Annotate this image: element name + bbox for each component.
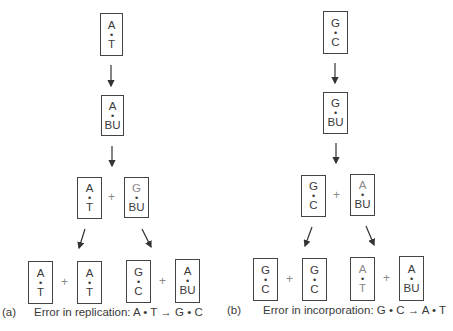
base-bottom: T [86,202,93,213]
caption-b: Error in incorporation: G • C → A • T [263,304,446,316]
arrow-diag-icon [79,229,85,248]
plus-sign: + [383,271,390,285]
base-pair-box-b-second: G • BU [323,92,348,134]
arrow-diag-icon [142,229,151,247]
base-pair-box-b-l4-3: A • T [350,257,375,301]
base-top: G [310,265,319,276]
base-bottom: C [331,37,339,48]
caption-a: Error in replication: A • T → G • C [34,306,203,318]
base-pair-box-a-l4-2: A • T [77,261,102,304]
panel-label-b: (b) [227,304,241,316]
base-bottom: BU [355,199,371,210]
base-top: A [109,101,117,112]
base-bottom: C [310,284,318,295]
plus-sign: + [286,272,293,286]
base-pair-box-a-l4-1: A • T [28,261,53,304]
base-bottom: BU [129,202,145,213]
plus-sign: + [159,274,166,288]
base-top: A [408,264,416,275]
base-pair-box-a-l3-2: G • BU [124,177,149,218]
base-bottom: C [309,200,317,211]
base-pair-box-a-top: A • T [100,13,123,56]
base-top: A [108,20,116,31]
base-pair-box-a-second: A • BU [101,95,124,136]
base-bottom: T [86,287,93,298]
base-pair-box-b-l4-2: G • C [302,258,327,301]
arrow-diag-icon [305,227,312,246]
panel-label-a: (a) [2,306,16,318]
base-top: G [261,265,270,276]
base-top: G [331,18,340,29]
base-top: A [86,268,94,279]
plus-sign: + [108,190,115,204]
base-bottom: BU [105,120,121,131]
base-pair-box-b-l4-4: A • BU [399,256,424,301]
base-bottom: C [261,284,269,295]
base-bottom: BU [328,117,344,128]
base-pair-box-a-l4-4: A • BU [175,259,200,303]
plus-sign: + [333,188,340,202]
base-bottom: BU [180,285,196,296]
plus-sign: + [61,275,68,289]
arrow-diag-icon [366,226,374,245]
base-bottom: T [37,287,44,298]
base-bottom: T [108,39,115,50]
base-top: A [37,268,45,279]
base-pair-box-a-l4-3: G • C [126,260,151,303]
base-pair-box-a-l3-1: A • T [77,177,102,219]
base-bottom: C [134,286,142,297]
base-pair-box-b-l3-1: G • C [301,175,326,217]
base-top-mutant: G [132,183,141,194]
base-bottom-mutant: T [359,283,366,294]
base-pair-box-b-l3-2: A • BU [350,174,375,216]
base-bottom: BU [404,283,420,294]
base-pair-box-b-l4-1: G • C [253,258,278,301]
base-pair-box-b-top: G • C [323,11,348,54]
base-top: G [134,267,143,278]
